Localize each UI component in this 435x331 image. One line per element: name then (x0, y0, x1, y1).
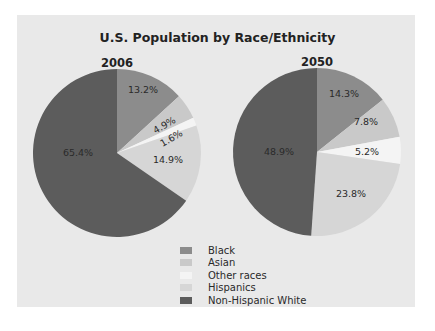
slice-label: 48.9% (264, 146, 294, 157)
slice-label: 14.3% (329, 88, 359, 99)
legend-item-non-hispanic-white: Non-Hispanic White (180, 294, 306, 307)
legend-swatch-hispanics (180, 284, 192, 291)
legend-item-hispanics: Hispanics (180, 282, 306, 295)
legend-swatch-other-races (180, 272, 192, 279)
pie-2050: 14.3%7.8%5.2%23.8%48.9% (233, 68, 401, 236)
pie-2006: 13.2%4.9%1.6%14.9%65.4% (33, 69, 201, 237)
legend-item-black: Black (180, 244, 306, 257)
legend-swatch-non-hispanic-white (180, 297, 192, 304)
slice-label: 14.9% (153, 154, 183, 165)
slice-label: 5.2% (355, 146, 379, 157)
legend-item-asian: Asian (180, 257, 306, 270)
legend-item-other-races: Other races (180, 269, 306, 282)
slice-label: 7.8% (354, 116, 378, 127)
legend: Black Asian Other races Hispanics Non-Hi… (180, 244, 306, 307)
slice-label: 65.4% (63, 147, 93, 158)
legend-swatch-black (180, 247, 192, 254)
slice-label: 13.2% (128, 84, 158, 95)
slice-label: 23.8% (336, 188, 366, 199)
legend-swatch-asian (180, 259, 192, 266)
